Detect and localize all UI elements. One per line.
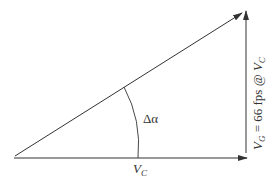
angle-label: Δα	[143, 111, 158, 126]
resultant-vector	[15, 13, 242, 156]
base-vector-label: VC	[133, 161, 148, 178]
angle-arc	[124, 87, 139, 158]
vector-diagram: Δα VC VG = 66 fps @ VC	[0, 0, 274, 185]
vertical-vector-label: VG = 66 fps @ VC	[250, 56, 267, 150]
diagram-svg: Δα VC VG = 66 fps @ VC	[0, 0, 274, 185]
